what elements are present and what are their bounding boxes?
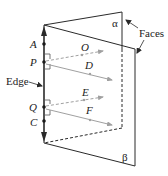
ray-PO [46, 51, 103, 61]
right-angle-mark-Q [45, 100, 50, 115]
label-A: A [29, 38, 37, 50]
arrow-down-icon [41, 132, 47, 142]
label-F: F [85, 104, 93, 116]
face-alpha [44, 12, 122, 143]
label-D: D [84, 59, 93, 71]
right-angle-mark-P [45, 54, 50, 69]
point-A [42, 42, 46, 46]
edge-pointer [29, 82, 42, 86]
ray-QE [46, 97, 103, 106]
label-O: O [81, 41, 89, 53]
label-faces: Faces [139, 27, 164, 39]
label-alpha: α [112, 17, 118, 29]
label-E: E [81, 86, 89, 98]
arrow-up-icon [41, 26, 47, 36]
face-beta [44, 25, 135, 166]
ray-PD [46, 64, 112, 80]
dihedral-angle-diagram: α β Faces Edge A P Q C O D E F [0, 0, 168, 176]
label-P: P [29, 56, 37, 68]
ray-QF [46, 109, 112, 125]
point-Q [42, 105, 46, 109]
label-C: C [30, 116, 38, 128]
point-P [42, 60, 46, 64]
point-C [42, 119, 46, 123]
label-Q: Q [29, 101, 37, 113]
label-edge: Edge [6, 75, 29, 87]
label-beta: β [122, 151, 128, 163]
